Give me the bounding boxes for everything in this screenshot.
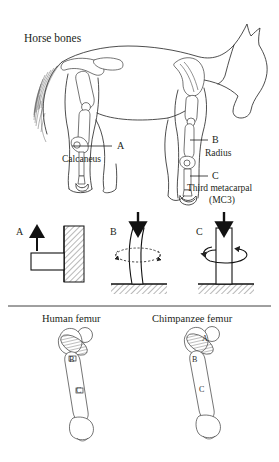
callout-letter-c: C [212, 170, 219, 181]
callout-letter-a: A [117, 140, 125, 151]
panel-title-horse: Horse bones [24, 32, 82, 44]
loading-letter-b: B [110, 226, 117, 237]
loading-letter-a: A [16, 226, 24, 237]
femur-label-chimp-c: C [199, 385, 204, 394]
callout-name-metacarpal: Third metacarpal [187, 183, 253, 193]
femur-label-human-b: B [69, 355, 74, 364]
femur-condyles-human [69, 417, 93, 440]
callout-name-calcaneus: Calcaneus [62, 154, 101, 164]
ground-hatched-b [111, 284, 167, 294]
femur-title-chimp: Chimpanzee femur [152, 313, 233, 324]
femur-label-human-c: C [76, 386, 81, 395]
loading-letter-c: C [196, 226, 203, 237]
callout-name-mc3: (MC3) [209, 195, 235, 206]
femur-condyles-chimp [196, 415, 220, 438]
callout-name-radius: Radius [205, 148, 232, 158]
femur-label-chimp-a: A [202, 334, 208, 343]
column-c [216, 228, 232, 284]
callout-letter-b: B [212, 134, 219, 145]
beam-a [31, 253, 64, 270]
femur-title-human: Human femur [42, 313, 101, 324]
wall-hatched-a [64, 226, 84, 282]
femur-label-chimp-b: B [192, 355, 197, 364]
ground-hatched-c [198, 284, 254, 294]
figure-root: Horse bones A Calcaneus B Radius C Third… [0, 0, 279, 462]
